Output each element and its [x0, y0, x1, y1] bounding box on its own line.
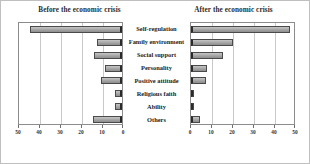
chart-panel-after: [190, 22, 295, 125]
axis-tick: [39, 125, 40, 128]
axis-tick: [274, 125, 275, 128]
axis-tick-label: 0: [189, 129, 192, 135]
axis-tick: [18, 125, 19, 128]
bar: [191, 39, 233, 46]
bar: [191, 90, 194, 97]
bar-row: [191, 23, 294, 36]
chart-title-before: Before the economic crisis: [7, 6, 152, 14]
bar-row: [19, 36, 122, 49]
bar: [30, 26, 122, 33]
axis-tick-label: 0: [122, 129, 125, 135]
bar: [115, 103, 122, 110]
axis-tick-label: 50: [15, 129, 20, 135]
axis-tick-label: 10: [99, 129, 104, 135]
bar: [105, 65, 122, 72]
axis-tick-label: 40: [271, 129, 276, 135]
chart-title-after: After the economic crisis: [161, 6, 306, 14]
bar: [101, 77, 122, 84]
axis-tick: [253, 125, 254, 128]
value-axis-after: 01020304050: [190, 125, 295, 141]
bar-row: [19, 75, 122, 88]
axis-tick-label: 30: [250, 129, 255, 135]
axis-tick: [232, 125, 233, 128]
bar-row: [191, 36, 294, 49]
bar: [94, 52, 122, 59]
value-axis-before: 50403020100: [18, 125, 123, 141]
bar-row: [19, 62, 122, 75]
plot-area-after: [191, 23, 294, 124]
axis-tick: [122, 125, 123, 128]
bar-row: [191, 100, 294, 113]
axis-tick-label: 30: [57, 129, 62, 135]
axis-tick-label: 10: [208, 129, 213, 135]
bar: [191, 77, 206, 84]
axis-tick-label: 20: [229, 129, 234, 135]
category-label: Family environment: [123, 38, 190, 45]
plot-area-before: [19, 23, 122, 124]
bar-row: [19, 49, 122, 62]
category-label: Self-regulation: [123, 25, 190, 32]
bar: [191, 26, 290, 33]
bar-row: [19, 113, 122, 124]
axis-tick: [190, 125, 191, 128]
figure-container: Before the economic crisis After the eco…: [0, 0, 310, 164]
bar: [191, 65, 207, 72]
category-label: Ability: [123, 102, 190, 109]
category-label: Positive attitude: [123, 76, 190, 83]
bar-row: [191, 113, 294, 124]
bar-row: [19, 100, 122, 113]
bar: [97, 39, 122, 46]
axis-tick: [294, 125, 295, 128]
axis-tick: [211, 125, 212, 128]
bar-row: [191, 87, 294, 100]
axis-tick-label: 50: [292, 129, 297, 135]
category-label: Others: [123, 115, 190, 122]
chart-panel-before: [18, 22, 123, 125]
axis-tick: [102, 125, 103, 128]
bar: [191, 52, 223, 59]
bar: [191, 116, 200, 123]
category-axis-labels: Self-regulationFamily environmentSocial …: [123, 22, 190, 125]
axis-tick-label: 40: [36, 129, 41, 135]
category-label: Personality: [123, 64, 190, 71]
axis-tick: [60, 125, 61, 128]
bar-row: [191, 49, 294, 62]
bar-row: [19, 23, 122, 36]
axis-tick: [81, 125, 82, 128]
bar: [93, 116, 122, 123]
bar-row: [19, 87, 122, 100]
bar: [191, 103, 194, 110]
bar: [115, 90, 122, 97]
axis-tick-label: 20: [78, 129, 83, 135]
category-label: Social support: [123, 51, 190, 58]
bar-row: [191, 62, 294, 75]
category-label: Religious faith: [123, 89, 190, 96]
bar-row: [191, 75, 294, 88]
